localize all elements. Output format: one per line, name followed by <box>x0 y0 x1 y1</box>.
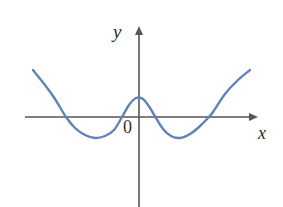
x-axis-label: x <box>258 124 266 142</box>
curve-group <box>33 70 250 138</box>
axes-group <box>25 34 250 207</box>
origin-label: 0 <box>123 118 132 136</box>
graph-figure: y x 0 <box>0 0 283 207</box>
quartic-curve <box>33 70 250 138</box>
y-axis-label: y <box>113 22 121 41</box>
plot-canvas <box>0 0 283 207</box>
